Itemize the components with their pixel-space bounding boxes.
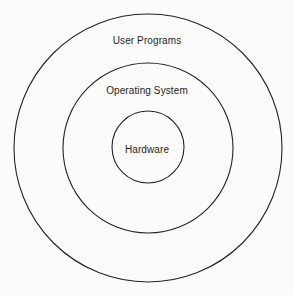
label-operating-system: Operating System (0, 85, 294, 97)
label-hardware: Hardware (0, 144, 294, 156)
label-user-programs: User Programs (0, 35, 294, 47)
